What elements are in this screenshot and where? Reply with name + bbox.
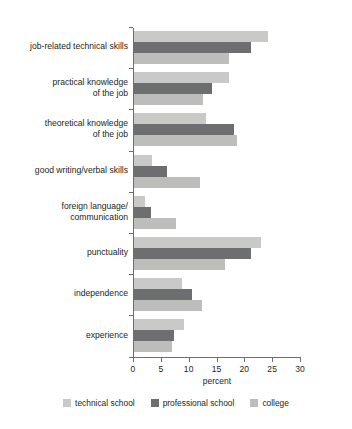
- category-label-line: practical knowledge: [4, 77, 128, 88]
- category-label: foreign language/communication: [4, 201, 128, 222]
- legend-item[interactable]: professional school: [151, 398, 235, 408]
- y-tick: [129, 151, 133, 152]
- bar: [134, 207, 151, 218]
- bar: [134, 341, 172, 352]
- x-tick-label: 5: [146, 364, 176, 374]
- bar: [134, 248, 251, 259]
- x-tick: [300, 358, 301, 362]
- category-label-line: foreign language/: [4, 201, 128, 212]
- x-tick-label: 20: [229, 364, 259, 374]
- legend-swatch-icon: [250, 399, 258, 407]
- y-tick: [129, 233, 133, 234]
- x-tick-label: 25: [257, 364, 287, 374]
- category-label-line: communication: [4, 212, 128, 223]
- legend-swatch-icon: [151, 399, 159, 407]
- category-label: good writing/verbal skills: [4, 165, 128, 176]
- category-label-line: of the job: [4, 88, 128, 99]
- chart-legend: technical schoolprofessional schoolcolle…: [0, 398, 352, 408]
- category-label: independence: [4, 288, 128, 299]
- category-label-line: job-related technical skills: [4, 41, 128, 52]
- bar: [134, 289, 192, 300]
- category-label: practical knowledgeof the job: [4, 77, 128, 98]
- x-tick-label: 15: [202, 364, 232, 374]
- bar: [134, 155, 152, 166]
- legend-swatch-icon: [63, 399, 71, 407]
- bar: [134, 31, 268, 42]
- category-label-line: independence: [4, 288, 128, 299]
- category-label-line: of the job: [4, 129, 128, 140]
- legend-item[interactable]: technical school: [63, 398, 135, 408]
- bar: [134, 42, 251, 53]
- category-label-line: experience: [4, 330, 128, 341]
- category-label-line: theoretical knowledge: [4, 118, 128, 129]
- category-label: punctuality: [4, 247, 128, 258]
- x-axis-title: percent: [133, 376, 301, 386]
- category-labels: job-related technical skillspractical kn…: [0, 0, 128, 429]
- x-tick: [189, 358, 190, 362]
- y-tick: [129, 274, 133, 275]
- y-tick: [129, 27, 133, 28]
- x-tick: [133, 358, 134, 362]
- bar-chart: 051015202530 job-related technical skill…: [0, 0, 352, 429]
- y-tick: [129, 68, 133, 69]
- bar: [134, 135, 237, 146]
- bar: [134, 237, 261, 248]
- bar: [134, 330, 174, 341]
- bar: [134, 300, 202, 311]
- x-tick-label: 10: [174, 364, 204, 374]
- bar: [134, 196, 145, 207]
- legend-item[interactable]: college: [250, 398, 289, 408]
- x-tick-label: 30: [285, 364, 315, 374]
- legend-label: technical school: [75, 398, 135, 408]
- x-tick: [161, 358, 162, 362]
- x-tick: [272, 358, 273, 362]
- bar: [134, 83, 212, 94]
- bar: [134, 278, 182, 289]
- y-tick: [129, 109, 133, 110]
- category-label: job-related technical skills: [4, 41, 128, 52]
- category-label: theoretical knowledgeof the job: [4, 118, 128, 139]
- x-tick: [217, 358, 218, 362]
- bar: [134, 177, 200, 188]
- bar: [134, 53, 229, 64]
- bar: [134, 94, 203, 105]
- bar: [134, 319, 184, 330]
- category-label: experience: [4, 330, 128, 341]
- category-label-line: punctuality: [4, 247, 128, 258]
- bar: [134, 166, 167, 177]
- bar: [134, 113, 206, 124]
- y-tick: [129, 192, 133, 193]
- legend-label: professional school: [163, 398, 235, 408]
- category-label-line: good writing/verbal skills: [4, 165, 128, 176]
- bar: [134, 218, 176, 229]
- x-tick: [244, 358, 245, 362]
- legend-label: college: [262, 398, 289, 408]
- bar: [134, 72, 229, 83]
- y-tick: [129, 315, 133, 316]
- bar: [134, 124, 234, 135]
- bar: [134, 259, 225, 270]
